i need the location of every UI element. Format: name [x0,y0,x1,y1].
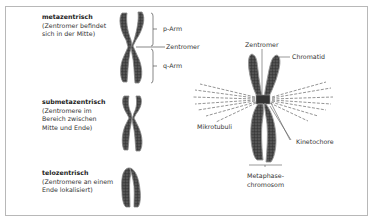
q-arm-label: q-Arm [163,62,182,70]
type-description-line: (Zentromere im [42,107,106,116]
type-description-line: Bereich zwischen [42,115,106,124]
type-description-line: Mitte und Ende) [42,124,106,133]
chromatid-label: Chromatid [292,53,325,61]
metaphase-centromere-label: Zentromer [245,41,279,49]
metaphase-caption: Metaphase- chromosom [247,171,284,189]
caption-line: chromosom [247,180,284,189]
p-arm-label: p-Arm [163,25,182,33]
type-telocentric: telozentrisch (Zentromere an einem Ende … [42,169,113,195]
type-description-line: (Zentromer befindet [42,22,106,31]
centromere-label: Zentromer [166,43,200,51]
telocentric-chromosome-icon [122,168,141,207]
type-description-line: Ende lokalisiert) [42,186,113,195]
caption-line: Metaphase- [247,171,284,180]
type-description-line: sich in der Mitte) [42,30,106,39]
type-metacentric: metazentrisch (Zentromer befindet sich i… [42,13,106,39]
type-submetacentric: submetazentrisch (Zentromere im Bereich … [42,98,106,132]
kinetochore-label: Kinetochore [296,138,334,146]
type-title: submetazentrisch [42,98,106,107]
type-title: metazentrisch [42,13,106,22]
microtubules-label: Mikrotubuli [197,123,232,131]
metacentric-chromosome-icon [120,12,144,83]
type-title: telozentrisch [42,169,113,178]
type-description-line: (Zentromere an einem [42,178,113,187]
submetacentric-chromosome-icon [122,96,142,151]
metaphase-chromosome-icon [249,54,280,162]
